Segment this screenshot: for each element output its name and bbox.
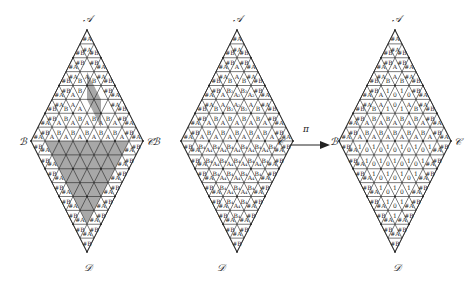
cell-label: B [256,115,261,122]
cell-label: A [364,119,370,126]
cell-label: A [98,119,104,126]
cell-label: B [421,129,426,136]
cell-label: 0 [365,146,369,153]
left-vertex-d: 𝒟 [84,262,92,274]
cell-label: 0 [372,160,376,167]
cell-label: A [220,101,226,108]
cell-label: A [77,133,83,140]
cell-label: A [220,91,226,98]
cell-label: B [379,129,384,136]
middle-vertex-a: 𝒜 [233,13,242,25]
cell-label: 0 [400,188,404,195]
map-arrow-icon [290,140,330,150]
cell-label: A [357,133,363,140]
cell-label: A [371,133,377,140]
cell-label: A [399,133,405,140]
left-vertex-b: ℬ [19,136,27,147]
right-vertex-b: ℬ [330,136,338,147]
cell-label: A [70,101,76,108]
cell-label: A [220,119,226,126]
middle-vertex-b: ℬ [152,136,160,147]
cell-label: B [235,129,240,136]
cell-label: B [85,129,90,136]
cell-label: 0 [379,174,383,181]
cell-label: B [372,105,377,112]
cell-label: B [386,115,391,122]
cell-label: B [78,77,83,84]
cell-label: 1 [386,87,390,94]
cell-label: 1 [400,87,404,94]
cell-label: B [64,105,69,112]
cell-label: 1 [386,105,390,112]
cell-label: 1 [400,143,404,150]
cell-label: 1 [358,143,362,150]
cell-label: 1 [379,184,383,191]
cell-label: B [414,115,419,122]
cell-label: B [365,129,370,136]
cell-label: A [392,119,398,126]
cell-label: A [105,133,111,140]
cell-label: B [78,115,83,122]
cell-label: A [241,133,247,140]
cell-label: 1 [393,184,397,191]
middle-vertex-d: 𝒟 [217,262,225,274]
cell-label: B [214,115,219,122]
cell-label: B [207,129,212,136]
left-vertex-a: 𝒜 [83,13,92,25]
cell-label: 1 [365,157,369,164]
cell-label: B [78,87,83,94]
cell-label: B [407,129,412,136]
cell-label: 0 [393,91,397,98]
cell-label: A [255,133,261,140]
cell-label: B [386,77,391,84]
cell-label: 0 [393,101,397,108]
cell-label: A [385,133,391,140]
cell-label: 0 [400,160,404,167]
cell-label: B [400,115,405,122]
cell-label: A [84,119,90,126]
cell-label: B [64,115,69,122]
right-vertex-a: 𝒜 [392,13,401,25]
cell-label: A [378,119,384,126]
cell-label: 0 [414,160,418,167]
cell-label: A [392,73,398,80]
cell-label: 0 [386,188,390,195]
cell-label: 1 [379,157,383,164]
cell-label: A [378,101,384,108]
cell-label: A [227,133,233,140]
cell-label: A [91,133,97,140]
pi-label: π [303,124,309,134]
cell-label: B [242,115,247,122]
cell-label: A [213,133,219,140]
cell-label: A [199,133,205,140]
cell-label: 0 [386,160,390,167]
cell-label: A [63,133,69,140]
cell-label: A [56,119,62,126]
cell-label: B [92,115,97,122]
cell-label: A [234,119,240,126]
cell-label: 1 [386,143,390,150]
cell-label: B [71,129,76,136]
cell-label: 1 [372,143,376,150]
cell-label: B [372,115,377,122]
cell-label: 0 [407,146,411,153]
cell-label: A [234,73,240,80]
cell-label: B [228,77,233,84]
cell-label: A [413,133,419,140]
cell-label: A [70,119,76,126]
cell-label: 0 [393,146,397,153]
cell-label: A [378,91,384,98]
right-vertex-c: 𝒞 [454,136,461,148]
cell-label: A [77,105,83,112]
cell-label: A [49,133,55,140]
cell-label: A [206,119,212,126]
cell-label: A [70,91,76,98]
cell-label: 0 [379,146,383,153]
cell-label: A [84,73,90,80]
cell-label: 1 [407,157,411,164]
cell-label: A [406,101,412,108]
cell-label: 0 [393,202,397,209]
cell-label: 1 [372,170,376,177]
cell-label: 1 [400,105,404,112]
cell-label: B [249,129,254,136]
